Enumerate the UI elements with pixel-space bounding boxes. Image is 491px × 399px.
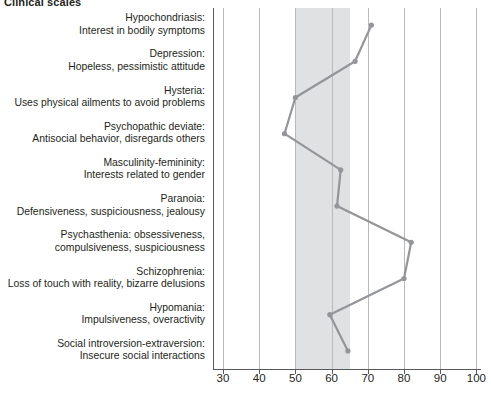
scale-label-line1: Paranoia:	[0, 193, 205, 205]
data-point-paranoia[interactable]	[334, 204, 339, 209]
scale-label-line2: compulsiveness, suspiciousness	[0, 242, 205, 254]
scale-label-psychopathic-deviate: Psychopathic deviate:Antisocial behavior…	[0, 121, 205, 146]
data-point-psychasthenia[interactable]	[409, 240, 414, 245]
tick-label-90: 90	[425, 372, 455, 384]
tick-label-70: 70	[353, 372, 383, 384]
plot-area	[213, 8, 481, 370]
tick-label-40: 40	[244, 372, 274, 384]
tick-label-100: 100	[461, 372, 491, 384]
scale-label-line2: Impulsiveness, overactivity	[0, 314, 205, 326]
scale-label-depression: Depression:Hopeless, pessimistic attitud…	[0, 48, 205, 73]
scale-label-line2: Hopeless, pessimistic attitude	[0, 61, 205, 73]
tick-label-80: 80	[389, 372, 419, 384]
scale-label-line2: Interests related to gender	[0, 169, 205, 181]
scale-label-line1: Hypomania:	[0, 302, 205, 314]
scale-label-line1: Social introversion-extraversion:	[0, 338, 205, 350]
profile-polyline	[285, 25, 412, 351]
data-point-psychopathic-deviate[interactable]	[282, 131, 287, 136]
scale-label-hypochondriasis: Hypochondriasis:Interest in bodily sympt…	[0, 12, 205, 37]
scale-label-line2: Loss of touch with reality, bizarre delu…	[0, 278, 205, 290]
scale-label-line1: Psychopathic deviate:	[0, 121, 205, 133]
scale-label-line1: Depression:	[0, 48, 205, 60]
scale-label-line2: Insecure social interactions	[0, 350, 205, 362]
data-point-hypochondriasis[interactable]	[369, 23, 374, 28]
scale-label-line1: Hypochondriasis:	[0, 12, 205, 24]
data-point-social-introversion[interactable]	[345, 348, 350, 353]
scale-label-hypomania: Hypomania:Impulsiveness, overactivity	[0, 302, 205, 327]
scale-label-paranoia: Paranoia:Defensiveness, suspiciousness, …	[0, 193, 205, 218]
scale-label-social-introversion: Social introversion-extraversion:Insecur…	[0, 338, 205, 363]
profile-line-series	[213, 8, 481, 370]
scale-label-line2: Antisocial behavior, disregards others	[0, 133, 205, 145]
data-point-masculinity-femininity[interactable]	[338, 167, 343, 172]
data-point-hysteria[interactable]	[293, 95, 298, 100]
tick-label-30: 30	[208, 372, 238, 384]
x-axis-tick-labels: 30405060708090100	[213, 372, 485, 392]
scale-label-line2: Interest in bodily symptoms	[0, 25, 205, 37]
scale-label-line1: Masculinity-femininity:	[0, 157, 205, 169]
scale-label-masculinity-femininity: Masculinity-femininity:Interests related…	[0, 157, 205, 182]
data-point-depression[interactable]	[353, 59, 358, 64]
scale-label-line1: Hysteria:	[0, 85, 205, 97]
scale-label-schizophrenia: Schizophrenia:Loss of touch with reality…	[0, 266, 205, 291]
data-point-schizophrenia[interactable]	[401, 276, 406, 281]
tick-label-60: 60	[317, 372, 347, 384]
scale-label-psychasthenia: Psychasthenia: obsessiveness,compulsiven…	[0, 229, 205, 254]
scale-label-hysteria: Hysteria:Uses physical ailments to avoid…	[0, 85, 205, 110]
scale-label-line1: Psychasthenia: obsessiveness,	[0, 229, 205, 241]
scale-labels-column: Hypochondriasis:Interest in bodily sympt…	[0, 0, 209, 370]
tick-label-50: 50	[280, 372, 310, 384]
data-point-hypomania[interactable]	[327, 312, 332, 317]
scale-label-line1: Schizophrenia:	[0, 266, 205, 278]
scale-label-line2: Uses physical ailments to avoid problems	[0, 97, 205, 109]
scale-label-line2: Defensiveness, suspiciousness, jealousy	[0, 206, 205, 218]
